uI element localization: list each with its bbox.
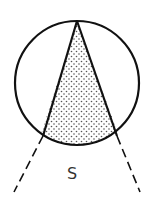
cone-section-diagram: S [0, 0, 144, 224]
shaded-region [36, 21, 124, 150]
dashed-extension-left [14, 136, 43, 192]
label-s: S [67, 164, 77, 183]
dashed-extension-right [117, 136, 140, 192]
